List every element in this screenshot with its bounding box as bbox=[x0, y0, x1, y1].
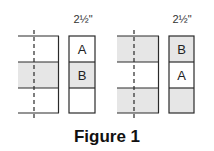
cell-label bbox=[69, 88, 95, 113]
figure-caption: Figure 1 bbox=[0, 127, 214, 147]
cell-label: B bbox=[69, 62, 95, 88]
cell-label: A bbox=[169, 62, 194, 88]
cell-label bbox=[169, 88, 194, 113]
cell-label: A bbox=[69, 36, 95, 62]
dimension-label-1: 2½" bbox=[69, 13, 97, 25]
strip-shaded-row bbox=[18, 62, 58, 88]
dimension-label-2: 2½" bbox=[168, 13, 196, 25]
cell-label: B bbox=[169, 36, 194, 62]
